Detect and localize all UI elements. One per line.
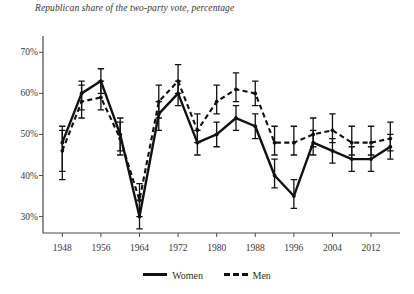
chart-legend: Women Men (0, 268, 414, 281)
y-tick-label: 30% (4, 212, 38, 222)
data-point (215, 133, 219, 137)
data-point (80, 100, 84, 104)
error-bar (213, 85, 219, 114)
data-point (369, 141, 373, 145)
data-point (292, 141, 296, 145)
y-tick-label: 70% (4, 47, 38, 57)
data-point (350, 157, 354, 161)
x-tick-label: 1948 (42, 243, 82, 253)
x-tick-label: 1996 (274, 243, 314, 253)
data-point (234, 87, 238, 91)
error-bar (271, 126, 277, 155)
data-point (292, 194, 296, 198)
data-point (350, 141, 354, 145)
error-bar (368, 126, 374, 155)
legend-swatch-dashed-icon (224, 273, 248, 276)
series-men (59, 65, 393, 217)
x-tick-label: 2012 (351, 243, 391, 253)
chart-figure: Republican share of the two-party vote, … (0, 0, 414, 294)
legend-item-women: Women (143, 269, 203, 281)
data-point (388, 137, 392, 141)
legend-label-men: Men (253, 270, 271, 281)
data-point (253, 91, 257, 95)
error-bar (387, 122, 393, 151)
legend-label-women: Women (172, 270, 203, 281)
axis-spines (43, 36, 400, 233)
x-tick-label: 1964 (119, 243, 159, 253)
legend-swatch-solid-icon (143, 273, 167, 276)
data-point (369, 157, 373, 161)
series-line (62, 81, 390, 217)
error-bar (233, 73, 239, 102)
data-point (138, 198, 142, 202)
series-women (59, 69, 393, 229)
data-point (253, 124, 257, 128)
data-point (331, 128, 335, 132)
data-point (331, 149, 335, 153)
y-tick-label: 60% (4, 88, 38, 98)
data-point (157, 100, 161, 104)
legend-item-men: Men (224, 269, 271, 281)
data-point (118, 137, 122, 141)
data-point (215, 100, 219, 104)
data-point (176, 79, 180, 83)
data-point (273, 141, 277, 145)
x-tick-label: 1972 (158, 243, 198, 253)
x-tick-label: 1980 (197, 243, 237, 253)
x-tick-label: 2004 (312, 243, 352, 253)
series-line (62, 81, 390, 200)
x-tick-label: 1956 (81, 243, 121, 253)
x-tick-label: 1988 (235, 243, 275, 253)
y-tick-label: 40% (4, 171, 38, 181)
y-tick-label: 50% (4, 129, 38, 139)
data-point (234, 116, 238, 120)
data-point (99, 96, 103, 100)
data-point (60, 149, 64, 153)
data-point (311, 133, 315, 137)
data-point (195, 128, 199, 132)
data-point (273, 174, 277, 178)
